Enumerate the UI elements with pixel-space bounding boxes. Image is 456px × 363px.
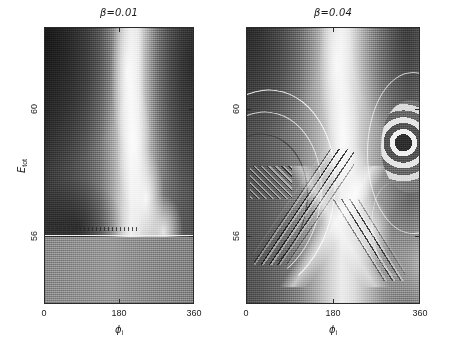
ytick-label-56-left: 56 xyxy=(29,231,39,241)
xtick-label-0-right: 0 xyxy=(243,308,248,318)
axis-title-y-left: Etot xyxy=(16,158,28,172)
xtick-180-top-left xyxy=(119,28,120,32)
xtick-label-180-left: 180 xyxy=(111,308,126,318)
axis-title-x-left: ϕi xyxy=(115,324,123,336)
ytick-60-rightedge-right xyxy=(415,109,419,110)
ytick-56-right-left xyxy=(189,236,193,237)
plot-area-left xyxy=(44,27,194,304)
figure-canvas: β=0.01 xyxy=(0,0,456,363)
ytick-60-left xyxy=(45,109,49,110)
axis-title-x-right: ϕi xyxy=(329,324,337,336)
ytick-60-right-left xyxy=(189,109,193,110)
dither-grain-left xyxy=(45,28,193,303)
xtick-180-right xyxy=(333,299,334,303)
xtick-180-top-right xyxy=(333,28,334,32)
xtick-label-360-left: 360 xyxy=(186,308,201,318)
ytick-56-left xyxy=(45,236,49,237)
panel-beta-0-04: β=0.04 xyxy=(246,27,420,304)
ytick-56-right xyxy=(247,236,251,237)
plot-area-right xyxy=(246,27,420,304)
panel-title-left: β=0.01 xyxy=(44,7,194,18)
panel-title-right: β=0.04 xyxy=(246,7,420,18)
ytick-label-60-left: 60 xyxy=(29,104,39,114)
dither-grain-right xyxy=(247,28,419,303)
xtick-label-0-left: 0 xyxy=(41,308,46,318)
ytick-label-56-right: 56 xyxy=(231,231,241,241)
xtick-label-180-right: 180 xyxy=(325,308,340,318)
panel-beta-0-01: β=0.01 xyxy=(44,27,194,304)
ytick-label-60-right: 60 xyxy=(231,104,241,114)
ytick-60-right xyxy=(247,109,251,110)
ytick-56-rightedge-right xyxy=(415,236,419,237)
xtick-label-360-right: 360 xyxy=(412,308,427,318)
xtick-180-left xyxy=(119,299,120,303)
